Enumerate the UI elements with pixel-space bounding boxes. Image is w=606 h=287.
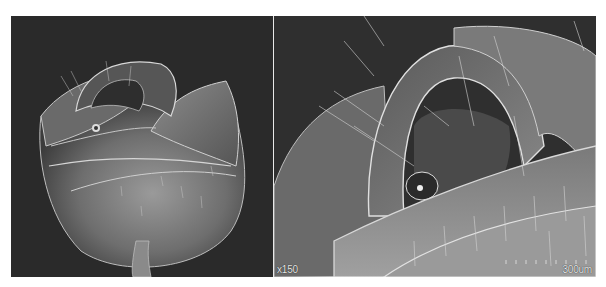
scale-bar-label: 300um <box>562 264 592 275</box>
left-micrograph-panel <box>11 16 273 277</box>
right-micrograph-panel: x150 300um <box>274 16 596 277</box>
rose-detail-micrograph <box>274 16 596 277</box>
magnification-label: x150 <box>277 264 298 275</box>
rose-bud-micrograph <box>11 16 273 277</box>
